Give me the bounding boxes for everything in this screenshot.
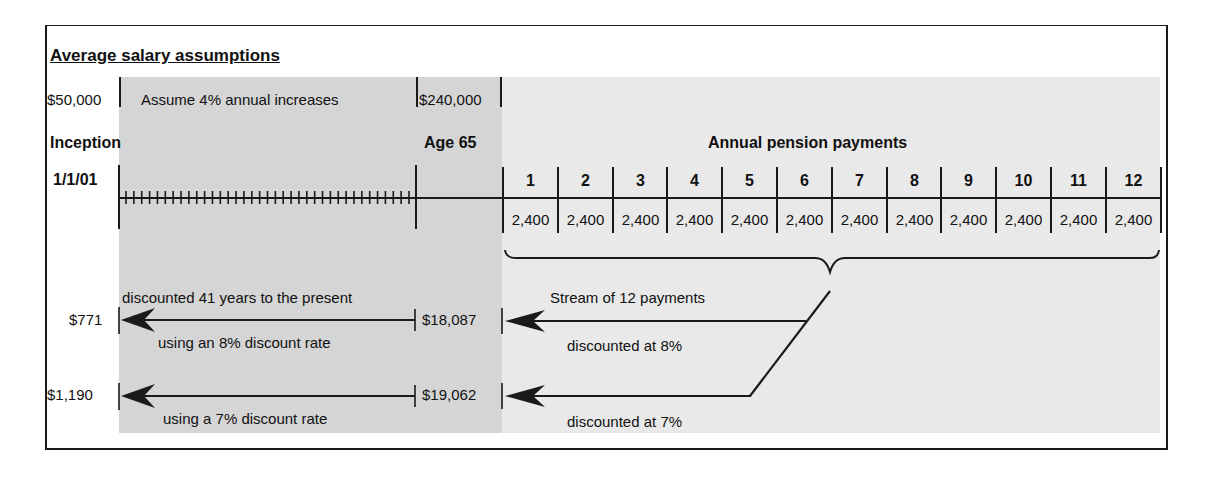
arrow-7-percent-discount: [119, 383, 415, 410]
diagram-lines: [0, 0, 1207, 477]
stream-connector: [750, 291, 830, 396]
payments-brace: [505, 250, 1159, 272]
year-tick-marks: [126, 191, 409, 204]
arrow-7-percent-stream: [502, 383, 751, 409]
arrow-8-percent-discount: [119, 307, 415, 334]
arrow-8-percent-stream: [502, 308, 806, 334]
